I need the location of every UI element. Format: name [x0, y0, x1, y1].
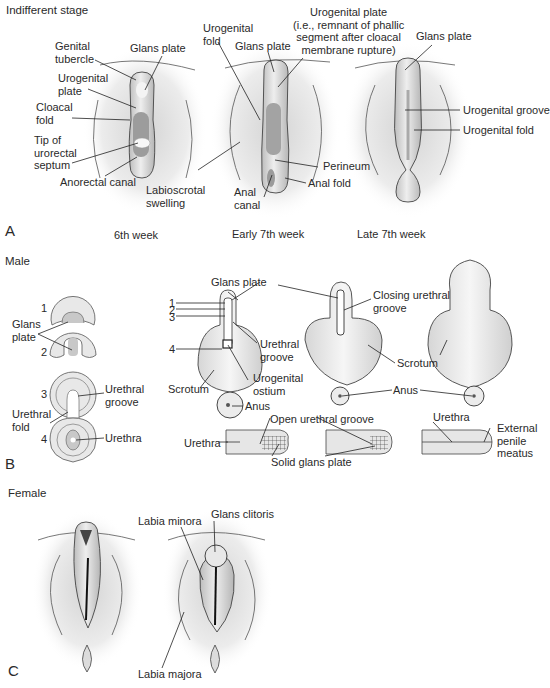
label-urethra-long-1: Urethra [184, 437, 221, 450]
stage-label-late-7th-week: Late 7th week [357, 228, 426, 241]
label-glans-plate-cs: Glans plate [12, 318, 41, 343]
cross-section-4 [50, 418, 96, 462]
cross-section-2 [50, 333, 96, 358]
label-labioscrotal-swelling: Labioscrotal swelling [146, 184, 205, 209]
cross-section-marker-4: 4 [169, 343, 175, 356]
label-tip-urorectal-septum: Tip of urorectal septum [34, 134, 77, 172]
male-figure-late-7th [428, 260, 512, 406]
female-figure-1 [32, 510, 142, 672]
male-figure-early-7th [305, 282, 382, 405]
section-title-male: Male [5, 255, 30, 268]
stage-label-early-7th-week: Early 7th week [232, 228, 304, 241]
label-scrotum-2: Scrotum [397, 357, 438, 370]
label-perineum: Perineum [323, 160, 370, 173]
label-glans-plate-a1: Glans plate [130, 42, 186, 55]
cross-section-marker-3: 3 [169, 311, 175, 324]
label-urogenital-groove-a3: Urogenital groove [463, 104, 550, 117]
label-urogenital-ostium: Urogenital ostium [253, 372, 303, 397]
female-figure-2 [162, 508, 272, 673]
cross-section-1 [51, 296, 95, 325]
panel-letter-a: A [5, 225, 15, 238]
label-glans-plate-a2: Glans plate [235, 40, 291, 53]
panel-letter-b: B [5, 458, 15, 471]
label-external-penile-meatus: External penile meatus [497, 422, 537, 460]
stage-label-6th-week: 6th week [114, 229, 158, 242]
label-cloacal-fold: Cloacal fold [36, 101, 73, 126]
cross-section-number-3: 3 [41, 388, 47, 401]
label-anus-2: Anus [393, 384, 418, 397]
section-title-indifferent: Indifferent stage [6, 4, 88, 17]
label-urogenital-plate-a2: Urogenital plate (i.e., remnant of phall… [293, 6, 404, 56]
label-urethra-long-3: Urethra [433, 411, 470, 424]
label-glans-clitoris: Glans clitoris [211, 508, 274, 521]
label-labia-majora: Labia majora [138, 668, 202, 681]
label-closing-urethral-groove: Closing urethral groove [373, 289, 450, 314]
label-glans-plate-a3: Glans plate [416, 30, 472, 43]
label-urethra-cs: Urethra [105, 432, 142, 445]
label-anus-1: Anus [245, 400, 270, 413]
label-labia-minora: Labia minora [138, 515, 202, 528]
figure-a-early-7th-week [210, 40, 340, 220]
cross-section-number-2: 2 [41, 346, 47, 359]
label-urethral-groove-m: Urethral groove [260, 338, 299, 363]
label-urogenital-plate-a1: Urogenital plate [58, 72, 108, 97]
cross-sections [50, 296, 96, 462]
label-urogenital-fold-a3: Urogenital fold [463, 124, 534, 137]
section-title-female: Female [8, 487, 46, 500]
label-scrotum-1: Scrotum [168, 383, 209, 396]
label-glans-plate-m: Glans plate [211, 276, 267, 289]
label-anal-canal: Anal canal [234, 186, 260, 211]
longitudinal-sections [226, 430, 492, 454]
cross-section-number-4: 4 [41, 433, 47, 446]
label-solid-glans-plate: Solid glans plate [271, 456, 352, 469]
label-anal-fold: Anal fold [308, 177, 351, 190]
label-anorectal-canal: Anorectal canal [60, 176, 136, 189]
panel-letter-c: C [8, 665, 19, 678]
cross-section-number-1: 1 [41, 302, 47, 315]
label-urethral-fold-cs: Urethral fold [12, 408, 51, 433]
label-urethral-groove-cs: Urethral groove [105, 383, 144, 408]
label-genital-tubercle: Genital tubercle [55, 40, 94, 65]
label-open-urethral-groove: Open urethral groove [270, 413, 374, 426]
